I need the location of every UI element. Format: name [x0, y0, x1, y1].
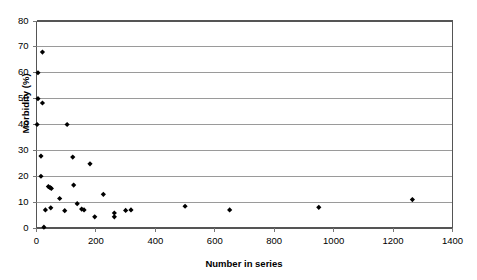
- data-point-markers: [34, 49, 414, 229]
- plot-area: [0, 0, 477, 280]
- gridlines: [37, 21, 453, 228]
- scatter-chart: Morbidity (%) Number in series 010203040…: [0, 0, 477, 280]
